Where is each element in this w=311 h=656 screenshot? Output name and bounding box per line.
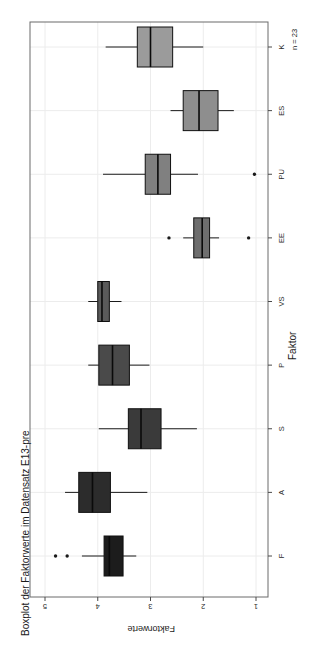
value-axis-title: Faktorwerte xyxy=(127,624,175,634)
boxplot-S[interactable] xyxy=(99,409,197,449)
tick-label-value-2: 2 xyxy=(201,602,205,611)
boxplot-ES[interactable] xyxy=(171,91,234,131)
tick-label-category-P: P xyxy=(277,363,286,368)
box-iqr xyxy=(79,472,111,512)
boxplot-figure: Boxplot der Faktorwerte im Datensatz E13… xyxy=(0,0,311,656)
boxplot-VS[interactable] xyxy=(88,282,121,322)
box-iqr xyxy=(104,536,123,576)
outlier-point-1 xyxy=(253,173,256,176)
tick-label-category-S: S xyxy=(277,426,286,431)
tick-label-category-PU: PU xyxy=(277,169,286,179)
box-iqr xyxy=(183,91,218,131)
boxplot-K[interactable] xyxy=(106,27,204,67)
tick-label-value-5: 5 xyxy=(43,602,47,611)
tick-label-category-EE: EE xyxy=(277,233,286,243)
tick-label-value-4: 4 xyxy=(96,602,100,611)
tick-label-category-A: A xyxy=(277,490,286,495)
outlier-point-1 xyxy=(167,236,170,239)
tick-label-category-ES: ES xyxy=(277,106,286,116)
chart-title: Boxplot der Faktorwerte im Datensatz E13… xyxy=(20,430,31,636)
tick-label-category-K: K xyxy=(277,44,286,49)
sample-size-annotation: n = 23 xyxy=(290,29,299,50)
box-iqr xyxy=(137,27,172,67)
plot-canvas: 54321KESPUEEVSPSAF xyxy=(0,0,311,656)
tick-label-value-1: 1 xyxy=(254,602,258,611)
outlier-point-2 xyxy=(247,236,250,239)
box-iqr xyxy=(128,409,161,449)
tick-label-category-VS: VS xyxy=(277,296,286,306)
box-iqr xyxy=(98,282,110,322)
boxplot-F[interactable] xyxy=(54,536,136,576)
category-axis-title: Faktor xyxy=(287,332,298,360)
tick-label-category-F: F xyxy=(277,553,286,558)
plot-panel-border xyxy=(30,22,268,597)
boxplot-A[interactable] xyxy=(65,472,147,512)
outlier-point-1 xyxy=(54,554,57,557)
box-iqr xyxy=(99,345,130,385)
outlier-point-2 xyxy=(65,554,68,557)
tick-label-value-3: 3 xyxy=(148,602,152,611)
